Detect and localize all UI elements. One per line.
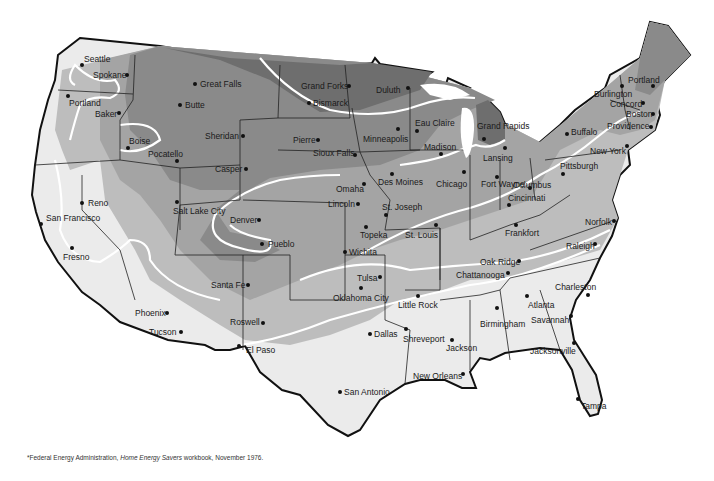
city-marker-norfolk	[612, 219, 616, 223]
city-label-new-orleans: New Orleans	[413, 372, 462, 381]
city-label-san-francisco: San Francisco	[46, 214, 100, 223]
city-marker-grand-rapids	[482, 137, 486, 141]
city-marker-salt-lake-city	[175, 200, 179, 204]
city-label-lansing: Lansing	[483, 154, 513, 163]
city-marker-wichita	[343, 250, 347, 254]
city-label-birmingham: Birmingham	[480, 320, 525, 329]
city-label-boise: Boise	[129, 137, 150, 146]
city-label-frankfort: Frankfort	[505, 229, 539, 238]
city-marker-pierre	[316, 138, 320, 142]
city-marker-pocatello	[175, 159, 179, 163]
city-marker-baker	[117, 111, 121, 115]
city-label-fresno: Fresno	[63, 253, 89, 262]
city-marker-denver	[257, 218, 261, 222]
city-label-concord: Concord	[610, 100, 642, 109]
city-marker-eau-claire	[415, 129, 419, 133]
footnote-suffix: workbook, November 1976.	[182, 454, 263, 461]
city-label-omaha: Omaha	[336, 185, 364, 194]
city-label-tampa: Tampa	[581, 402, 607, 411]
city-label-portland: Portland	[69, 99, 101, 108]
city-marker-santa-fe	[246, 283, 250, 287]
city-label-tulsa: Tulsa	[357, 274, 377, 283]
city-label-buffalo: Buffalo	[571, 128, 597, 137]
city-label-jackson: Jackson	[446, 344, 477, 353]
footnote-title: Home Energy Savers	[120, 454, 182, 461]
city-label-great-falls: Great Falls	[200, 80, 242, 89]
city-marker-tucson	[179, 330, 183, 334]
city-label-tucson: Tucson	[149, 328, 177, 337]
city-marker-des-moines	[390, 172, 394, 176]
city-marker-duluth	[406, 86, 410, 90]
city-marker-topeka	[364, 225, 368, 229]
city-label-raleigh: Raleigh	[566, 242, 595, 251]
city-marker-bismarck	[307, 101, 311, 105]
city-marker-oklahoma-city	[359, 286, 363, 290]
city-marker-sheridan	[241, 134, 245, 138]
city-marker-casper	[244, 167, 248, 171]
city-marker-jacksonville	[572, 341, 576, 345]
city-marker-madison	[439, 152, 443, 156]
city-marker-boise	[126, 146, 130, 150]
city-label-atlanta: Atlanta	[528, 301, 554, 310]
city-marker-minneapolis	[396, 127, 400, 131]
city-marker-birmingham	[495, 306, 499, 310]
city-marker-dallas	[368, 332, 372, 336]
city-label-san-antonio: San Antonio	[344, 388, 390, 397]
city-label-lincoln: Lincoln	[328, 200, 355, 209]
city-marker-great-falls	[193, 82, 197, 86]
city-marker-san-antonio	[338, 390, 342, 394]
city-label-topeka: Topeka	[360, 231, 387, 240]
city-label-columbus: Columbus	[513, 181, 551, 190]
city-label-santa-fe: Santa Fe	[211, 281, 246, 290]
city-label-chicago: Chicago	[436, 180, 467, 189]
city-label-boston: Boston	[626, 110, 652, 119]
city-marker-tulsa	[378, 275, 382, 279]
city-marker-st-louis	[434, 223, 438, 227]
city-marker-tampa	[576, 397, 580, 401]
city-label-spokane: Spokane	[93, 71, 127, 80]
city-label-burlington: Burlington	[594, 90, 632, 99]
city-label-st-joseph: St. Joseph	[382, 203, 422, 212]
city-label-casper: Casper	[215, 165, 242, 174]
city-label-madison: Madison	[424, 143, 456, 152]
city-label-phoenix: Phoenix	[135, 309, 166, 318]
city-label-grand-rapids: Grand Rapids	[477, 122, 529, 131]
city-label-little-rock: Little Rock	[398, 301, 438, 310]
city-label-wichita: Wichita	[349, 248, 377, 257]
city-label-chattanooga: Chattanooga	[456, 271, 505, 280]
city-label-des-moines: Des Moines	[378, 178, 423, 187]
city-label-oak-ridge: Oak Ridge	[480, 258, 520, 267]
city-label-dallas: Dallas	[374, 330, 398, 339]
city-label-el-paso: El Paso	[246, 346, 275, 355]
city-label-shreveport: Shreveport	[403, 335, 445, 344]
city-marker-charleston	[586, 293, 590, 297]
city-label-eau-claire: Eau Claire	[415, 119, 455, 128]
city-label-baker: Baker	[95, 110, 117, 119]
city-label-pittsburgh: Pittsburgh	[560, 162, 598, 171]
city-marker-frankfort	[514, 223, 518, 227]
city-marker-san-francisco	[39, 222, 43, 226]
city-marker-buffalo	[565, 132, 569, 136]
city-marker-jackson	[450, 338, 454, 342]
city-marker-lincoln	[356, 202, 360, 206]
city-marker-shreveport	[404, 327, 408, 331]
city-label-charleston: Charleston	[555, 283, 596, 292]
city-label-salt-lake-city: Salt Lake City	[173, 207, 225, 216]
city-marker-cincinnati	[507, 203, 511, 207]
city-label-new-york: New York	[590, 147, 626, 156]
city-label-cincinnati: Cincinnati	[508, 194, 545, 203]
city-marker-el-paso	[237, 344, 241, 348]
city-label-butte: Butte	[185, 101, 205, 110]
city-label-roswell: Roswell	[230, 318, 260, 327]
city-label-reno: Reno	[88, 199, 108, 208]
city-label-sioux-falls: Sioux Falls	[313, 149, 355, 158]
city-label-pueblo: Pueblo	[268, 240, 294, 249]
city-label-duluth: Duluth	[376, 86, 401, 95]
city-label-providence: Providence	[607, 122, 650, 131]
city-marker-burlington	[620, 84, 624, 88]
city-label-bismarck: Bismarck	[313, 99, 348, 108]
city-marker-reno	[80, 201, 84, 205]
city-label-savannah: Savannah	[531, 316, 569, 325]
city-marker-lansing	[503, 146, 507, 150]
city-marker-chattanooga	[506, 271, 510, 275]
